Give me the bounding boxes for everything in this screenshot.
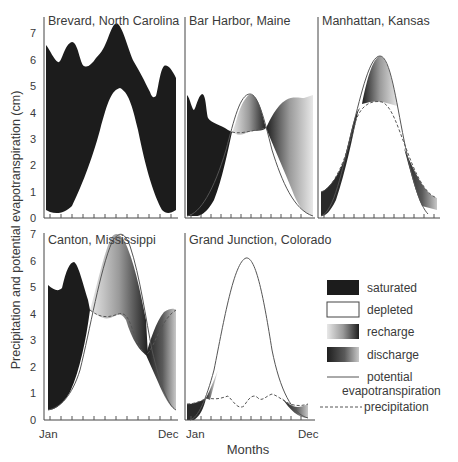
svg-text:precipitation: precipitation: [364, 400, 429, 414]
panel-canton: Canton, Mississippi: [44, 233, 178, 420]
x-label-jan-2: Jan: [186, 428, 205, 440]
panel-manhattan: Manhattan, Kansas: [318, 14, 440, 218]
water-balance-figure: Precipitation and potential evapotranspi…: [0, 0, 458, 462]
svg-text:2: 2: [30, 159, 36, 171]
svg-text:4: 4: [30, 308, 36, 320]
svg-text:saturated: saturated: [367, 281, 417, 295]
svg-text:2: 2: [30, 361, 36, 373]
panel-title: Brevard, North Carolina: [48, 14, 179, 28]
y-axis-bottom: 0 1 2 3 4 5 6 7: [30, 228, 36, 426]
panel-title: Canton, Mississippi: [48, 233, 156, 247]
svg-text:potential: potential: [367, 370, 412, 384]
svg-text:0: 0: [30, 212, 36, 224]
saturated-swatch: [327, 280, 359, 295]
svg-text:6: 6: [30, 255, 36, 267]
svg-text:0: 0: [30, 414, 36, 426]
legend: saturated depleted recharge discharge po…: [320, 280, 441, 414]
saturated-area: [46, 24, 176, 213]
svg-text:7: 7: [30, 228, 36, 240]
panel-title: Manhattan, Kansas: [322, 14, 430, 28]
x-axis-label: Months: [227, 442, 270, 457]
svg-text:3: 3: [30, 133, 36, 145]
svg-text:discharge: discharge: [367, 348, 419, 362]
svg-text:1: 1: [30, 387, 36, 399]
panel-title: Grand Junction, Colorado: [189, 233, 331, 247]
x-label-dec-1: Dec: [158, 428, 179, 440]
discharge-swatch: [327, 347, 359, 362]
svg-text:4: 4: [30, 107, 36, 119]
svg-text:depleted: depleted: [367, 303, 413, 317]
svg-text:3: 3: [30, 334, 36, 346]
panel-bar-harbor: Bar Harbor, Maine: [185, 14, 315, 218]
y-axis-top: 0 1 2 3 4 5 6 7: [30, 27, 36, 224]
svg-text:5: 5: [30, 80, 36, 92]
svg-text:1: 1: [30, 186, 36, 198]
svg-text:evapotranspiration: evapotranspiration: [342, 384, 441, 398]
svg-text:recharge: recharge: [367, 325, 415, 339]
depleted-swatch: [327, 302, 359, 317]
panel-title: Bar Harbor, Maine: [189, 14, 290, 28]
panel-brevard: Brevard, North Carolina: [44, 14, 179, 218]
panel-grand-junction: Grand Junction, Colorado: [185, 233, 331, 420]
recharge-swatch: [327, 324, 359, 339]
x-label-jan-1: Jan: [39, 428, 58, 440]
svg-text:6: 6: [30, 54, 36, 66]
svg-text:7: 7: [30, 27, 36, 39]
x-label-dec-2: Dec: [298, 428, 319, 440]
y-axis-label: Precipitation and potential evapotranspi…: [9, 91, 23, 370]
svg-text:5: 5: [30, 281, 36, 293]
